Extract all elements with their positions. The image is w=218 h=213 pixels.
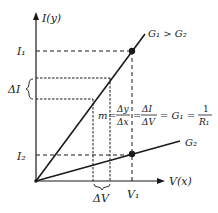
delta-i-label: ΔI [7, 83, 21, 96]
g2-label: G₂ [185, 137, 197, 148]
equation-frac3-num: 1 [203, 104, 209, 114]
equation-frac2-den: ΔV [141, 117, 156, 127]
g1-line [36, 34, 145, 181]
equation-eq2: = [133, 110, 141, 121]
conductance-diagram: I(y) V(x) G₁ > G₂ G₂ I₁ I₂ V₁ ΔI ΔV m = … [0, 0, 218, 213]
g2-line [36, 141, 180, 181]
equation-frac2-num: ΔI [141, 104, 152, 114]
y-axis-label: I(y) [41, 12, 61, 25]
origin-point [34, 179, 38, 183]
delta-v-brace-icon [94, 184, 110, 190]
conductance-lines [36, 34, 180, 181]
y-axis-arrow-icon [33, 12, 39, 20]
g1-label: G₁ > G₂ [148, 28, 187, 39]
i1-tick-label: I₁ [16, 45, 26, 58]
i2-tick-label: I₂ [16, 150, 26, 163]
slope-equation: m = Δy Δx = ΔI ΔV = G₁ = 1 R₁ [98, 104, 212, 127]
g2-point [129, 151, 135, 157]
delta-i-brace-icon [26, 79, 33, 99]
g1-point [129, 48, 135, 54]
x-axis-arrow-icon [157, 178, 165, 184]
equation-eq3: = G₁ = [160, 110, 195, 121]
equation-frac1-den: Δx [116, 117, 129, 127]
equation-m: m [98, 110, 107, 121]
v1-tick-label: V₁ [127, 188, 139, 201]
delta-v-label: ΔV [92, 192, 110, 205]
equation-frac1-num: Δy [116, 104, 129, 114]
x-axis-label: V(x) [169, 175, 192, 188]
equation-eq1: = [108, 110, 116, 121]
equation-frac3-den: R₁ [198, 117, 209, 127]
